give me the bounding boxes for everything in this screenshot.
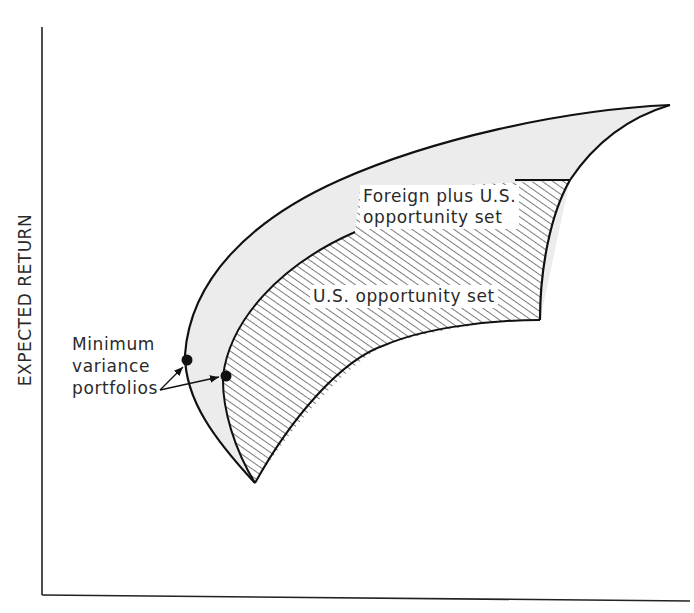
us-set-label: U.S. opportunity set — [310, 285, 498, 308]
foreign-label-line2: opportunity set — [363, 207, 516, 228]
arrow-to-foreign-us-point — [160, 367, 183, 390]
min-variance-point-foreign-us — [182, 355, 193, 366]
min-variance-label: Minimum variance portfolios — [72, 333, 158, 399]
minvar-label-line3: portfolios — [72, 377, 158, 399]
min-variance-point-us — [221, 371, 232, 382]
efficient-frontier-diagram: EXPECTED RETURN Foreign plus U.S. opport… — [0, 0, 694, 613]
x-axis — [42, 595, 690, 601]
foreign-plus-us-label: Foreign plus U.S. opportunity set — [360, 185, 519, 229]
minvar-label-line1: Minimum — [72, 333, 158, 355]
foreign-label-line1: Foreign plus U.S. — [363, 186, 516, 207]
minvar-label-line2: variance — [72, 355, 158, 377]
y-axis-label: EXPECTED RETURN — [15, 180, 35, 420]
